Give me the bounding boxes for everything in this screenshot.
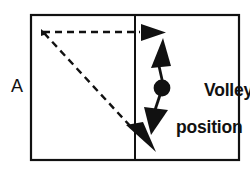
court-diagram — [0, 0, 250, 170]
diagram-canvas: A Volley position — [0, 0, 250, 170]
volley-position-dot — [154, 80, 171, 97]
